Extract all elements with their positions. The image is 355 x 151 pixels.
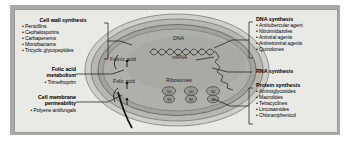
group-protein-synthesis: Protein synthesis Aminoglycosides Macrol…	[256, 82, 334, 118]
ribosome-large-subunit: 50	[186, 89, 197, 94]
mrna-label: mRNA	[172, 54, 187, 60]
list-item: Tricyclic glycopeptides	[22, 47, 104, 53]
ribosome-small-subunit: 30	[208, 97, 219, 102]
folinic-acid-label: Folinic acid	[110, 56, 136, 62]
ribosome-large-subunit: 50	[208, 89, 219, 94]
list-item: Chloramphenicol	[256, 112, 334, 118]
ribosomes-label: Ribosomes	[166, 77, 192, 83]
list-item: Quinolones	[256, 46, 334, 52]
rna-synthesis-heading: RNA synthesis	[256, 68, 334, 74]
folic-acid-label: Folic acid	[113, 78, 135, 84]
diagram-canvas: DNA mRNA Ribosomes Folinic acid Folic ac…	[0, 0, 355, 151]
list-item: Trimethoprim	[20, 79, 76, 85]
group-rna-synthesis: RNA synthesis	[256, 68, 334, 74]
ribosome-small-subunit: 30	[164, 97, 175, 102]
group-folic-acid-metabolism: Folic acid metabolism Trimethoprim	[20, 66, 76, 85]
group-cell-membrane-permeability: Cell membrane permeability Polyene antif…	[14, 94, 76, 113]
list-item: Polyene antifungals	[14, 107, 76, 113]
group-cell-wall-synthesis: Cell wall synthesis Penicillins Cephalos…	[22, 17, 104, 53]
ribosome-large-subunit: 50	[164, 89, 175, 94]
group-dna-synthesis: DNA synthesis Antitubercular agent Nitro…	[256, 16, 334, 52]
ribosome-small-subunit: 30	[186, 97, 197, 102]
dna-label: DNA	[173, 35, 184, 41]
